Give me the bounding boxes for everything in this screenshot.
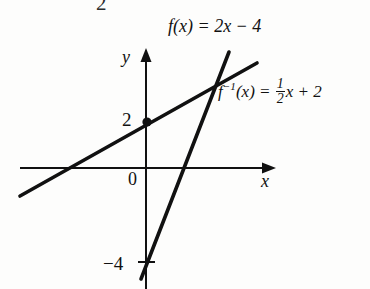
origin-label: 0	[128, 170, 137, 188]
x-axis-label: x	[261, 172, 269, 190]
x-axis	[20, 163, 276, 174]
one-half-fraction: 12	[276, 77, 285, 106]
y-intercept-point	[142, 117, 151, 126]
inverse-equation-mid: (x) =	[236, 82, 275, 101]
y-tick-label-2: 2	[122, 110, 132, 129]
inverse-equation-label: f−1(x) = 12x + 2	[218, 78, 322, 107]
function-line	[141, 52, 229, 279]
function-equation-text: f(x) = 2x − 4	[168, 16, 261, 36]
y-axis-label: y	[122, 48, 130, 66]
function-equation-label: f(x) = 2x − 4	[168, 17, 261, 35]
partial-text-above: 2	[96, 0, 107, 14]
fraction-numerator: 1	[276, 77, 285, 91]
fraction-denominator: 2	[276, 91, 285, 106]
graph-canvas	[0, 0, 370, 289]
inverse-function-figure: 2 f(x) = 2x − 4 f−1(x) = 12x + 2 y x 2 0…	[0, 0, 370, 289]
y-tick-label-neg4: −4	[103, 254, 123, 273]
inverse-exponent: −1	[223, 80, 236, 92]
inverse-equation-tail: x + 2	[286, 82, 322, 101]
